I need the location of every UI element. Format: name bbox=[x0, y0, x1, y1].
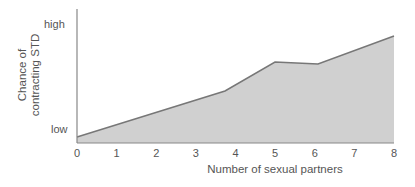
y-title-line1: Chance of bbox=[16, 30, 29, 120]
y-axis-title: Chance of contracting STD bbox=[16, 30, 42, 120]
x-tick-7: 7 bbox=[344, 147, 364, 159]
y-tick-low: low bbox=[51, 123, 68, 135]
x-tick-1: 1 bbox=[107, 147, 127, 159]
x-tick-6: 6 bbox=[305, 147, 325, 159]
x-axis-title: Number of sexual partners bbox=[160, 163, 390, 175]
x-tick-3: 3 bbox=[186, 147, 206, 159]
x-tick-0: 0 bbox=[67, 147, 87, 159]
y-tick-high: high bbox=[44, 18, 65, 30]
x-tick-8: 8 bbox=[384, 147, 404, 159]
x-tick-5: 5 bbox=[265, 147, 285, 159]
area-fill bbox=[77, 36, 394, 143]
y-title-line2: contracting STD bbox=[29, 30, 42, 120]
x-tick-2: 2 bbox=[146, 147, 166, 159]
x-tick-4: 4 bbox=[226, 147, 246, 159]
